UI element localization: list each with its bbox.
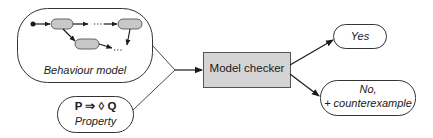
behaviour-model-label: Behaviour model (17, 64, 153, 76)
no-label: No, (320, 83, 416, 95)
yes-label: Yes (333, 30, 387, 42)
state-node-3 (75, 39, 99, 49)
property-formula: P ⇒ ◊ Q (57, 99, 134, 113)
initial-state-dot (31, 22, 36, 27)
state-node-2 (118, 19, 142, 29)
model-checker-label: Model checker (203, 62, 291, 74)
arrow-to-yes (290, 40, 333, 65)
arrow-to-no (290, 74, 319, 96)
counterexample-label: + counterexample (320, 97, 416, 109)
property-label: Property (57, 115, 134, 127)
state-node-1 (51, 19, 73, 29)
